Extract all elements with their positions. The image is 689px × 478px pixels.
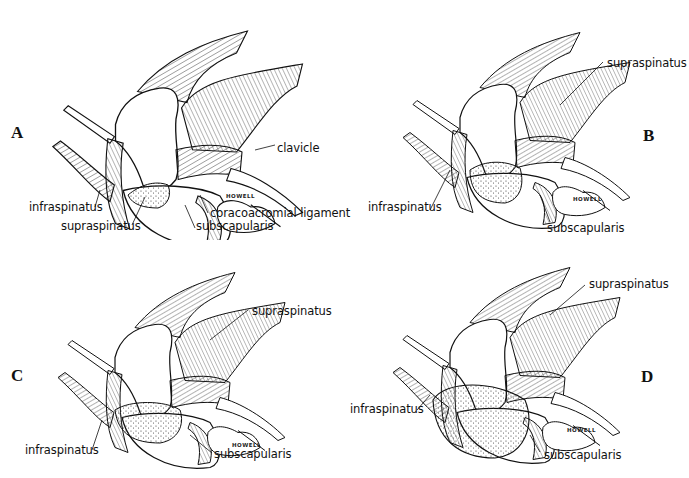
label-coracoacromial-ligament: coracoacromial ligament [210, 206, 350, 220]
label-subscapularis: subscapularis [547, 221, 624, 235]
panel-d: D supraspinatus infraspinatus subscapula… [345, 240, 689, 478]
panel-letter-a: A [11, 123, 23, 143]
panel-a: A clavicle infraspinatus coracoacromial … [0, 0, 345, 240]
panel-letter-b: B [643, 126, 654, 146]
label-supraspinatus: supraspinatus [252, 304, 332, 318]
label-infraspinatus: infraspinatus [29, 200, 103, 214]
label-infraspinatus: infraspinatus [350, 402, 424, 416]
shoulder-illustration-d [345, 240, 689, 478]
label-subscapularis: subscapularis [544, 448, 621, 462]
panel-c: C supraspinatus infraspinatus subscapula… [0, 240, 345, 478]
label-supraspinatus: supraspinatus [61, 219, 141, 233]
panel-letter-c: C [11, 366, 23, 386]
label-subscapularis: subscapularis [196, 219, 273, 233]
artist-signature: HOWELL [232, 442, 261, 448]
label-supraspinatus: supraspinatus [607, 56, 687, 70]
artist-signature: HOWELL [226, 193, 255, 199]
panel-b: B supraspinatus infraspinatus subscapula… [345, 0, 689, 240]
artist-signature: HOWELL [573, 196, 602, 202]
label-infraspinatus: infraspinatus [25, 443, 99, 457]
label-infraspinatus: infraspinatus [368, 200, 442, 214]
artist-signature: HOWELL [567, 427, 596, 433]
panel-letter-d: D [641, 367, 653, 387]
label-subscapularis: subscapularis [214, 447, 291, 461]
label-supraspinatus: supraspinatus [589, 277, 669, 291]
label-clavicle: clavicle [277, 141, 319, 155]
